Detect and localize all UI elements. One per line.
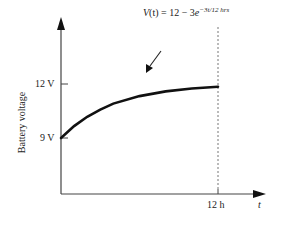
ytick-12-label: 12 V xyxy=(35,78,55,89)
equation-t: (t) xyxy=(149,7,158,18)
y-axis-label: Battery voltage xyxy=(16,83,27,163)
y-axis-arrow-icon xyxy=(57,17,65,30)
x-axis-label: t xyxy=(258,199,261,210)
x-axis-arrow-icon xyxy=(253,190,266,198)
equation-rest: = 12 − 3 xyxy=(159,7,195,18)
voltage-curve xyxy=(61,87,218,138)
xtick-12-label: 12 h xyxy=(207,199,225,210)
equation-label: V(t) = 12 − 3e−3t/12 hrs xyxy=(143,6,229,18)
annotation-arrow-icon xyxy=(146,64,153,73)
ytick-9-label: 9 V xyxy=(40,132,55,143)
equation-exponent: −3t/12 hrs xyxy=(199,6,229,14)
annotation-arrow-line xyxy=(150,51,161,66)
chart-canvas xyxy=(0,0,287,225)
